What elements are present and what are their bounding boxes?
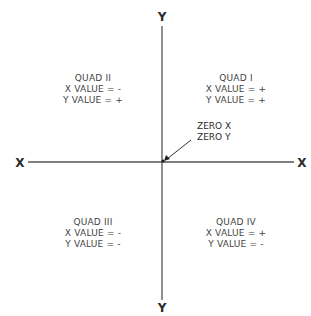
axes-graphic — [0, 0, 311, 316]
quadrant-y-value: Y VALUE = + — [206, 95, 267, 106]
quadrant-diagram: Y Y X X ZERO X ZERO Y QUAD II X VALUE = … — [0, 0, 311, 316]
origin-point — [161, 159, 164, 162]
quadrant-x-value: X VALUE = - — [65, 228, 121, 239]
quadrant-title: QUAD III — [65, 217, 121, 228]
quadrant-x-value: X VALUE = - — [63, 84, 123, 95]
quadrant-2-label: QUAD II X VALUE = - Y VALUE = + — [63, 73, 123, 106]
origin-arrow-icon — [164, 140, 191, 161]
quadrant-title: QUAD I — [206, 73, 267, 84]
quadrant-3-label: QUAD III X VALUE = - Y VALUE = - — [65, 217, 121, 250]
origin-label: ZERO X ZERO Y — [197, 121, 231, 143]
quadrant-y-value: Y VALUE = - — [206, 239, 267, 250]
origin-label-y: ZERO Y — [197, 132, 231, 143]
quadrant-1-label: QUAD I X VALUE = + Y VALUE = + — [206, 73, 267, 106]
x-axis-left-label: X — [15, 156, 24, 170]
y-axis-top-label: Y — [158, 10, 167, 24]
quadrant-4-label: QUAD IV X VALUE = + Y VALUE = - — [206, 217, 267, 250]
y-axis-bottom-label: Y — [158, 301, 167, 315]
quadrant-y-value: Y VALUE = + — [63, 95, 123, 106]
quadrant-title: QUAD IV — [206, 217, 267, 228]
quadrant-y-value: Y VALUE = - — [65, 239, 121, 250]
quadrant-x-value: X VALUE = + — [206, 84, 267, 95]
quadrant-title: QUAD II — [63, 73, 123, 84]
origin-label-x: ZERO X — [197, 121, 231, 132]
quadrant-x-value: X VALUE = + — [206, 228, 267, 239]
x-axis-right-label: X — [297, 156, 306, 170]
